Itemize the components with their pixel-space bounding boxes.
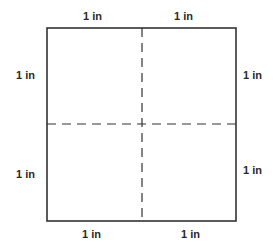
label-bottom-left: 1 in: [82, 228, 101, 240]
label-left-lower: 1 in: [16, 168, 35, 180]
label-right-upper: 1 in: [243, 69, 262, 81]
square-diagram: [0, 0, 278, 248]
label-top-right: 1 in: [174, 10, 193, 22]
label-top-left: 1 in: [83, 10, 102, 22]
label-left-upper: 1 in: [16, 69, 35, 81]
label-bottom-right: 1 in: [181, 228, 200, 240]
label-right-lower: 1 in: [243, 164, 262, 176]
